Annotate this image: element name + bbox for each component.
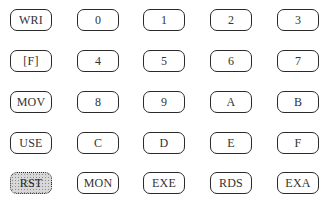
key-use[interactable]: USE bbox=[10, 132, 52, 154]
key-exe[interactable]: EXE bbox=[143, 172, 185, 194]
key-8[interactable]: 8 bbox=[77, 91, 119, 113]
key-exa[interactable]: EXA bbox=[277, 172, 319, 194]
key-0[interactable]: 0 bbox=[77, 9, 119, 31]
key-b[interactable]: B bbox=[277, 91, 319, 113]
key-rds[interactable]: RDS bbox=[210, 172, 252, 194]
key-function[interactable]: [F] bbox=[10, 50, 52, 72]
key-wri[interactable]: WRI bbox=[10, 9, 52, 31]
key-mov[interactable]: MOV bbox=[10, 91, 52, 113]
key-6[interactable]: 6 bbox=[210, 50, 252, 72]
key-4[interactable]: 4 bbox=[77, 50, 119, 72]
keypad: WRI 0 1 2 3 [F] 4 5 6 7 MOV 8 9 A B USE … bbox=[0, 0, 328, 204]
key-a[interactable]: A bbox=[210, 91, 252, 113]
key-f[interactable]: F bbox=[277, 132, 319, 154]
key-c[interactable]: C bbox=[77, 132, 119, 154]
key-7[interactable]: 7 bbox=[277, 50, 319, 72]
key-rst[interactable]: RST bbox=[10, 172, 52, 194]
key-e[interactable]: E bbox=[210, 132, 252, 154]
key-2[interactable]: 2 bbox=[210, 9, 252, 31]
key-mon[interactable]: MON bbox=[77, 172, 119, 194]
key-5[interactable]: 5 bbox=[143, 50, 185, 72]
key-1[interactable]: 1 bbox=[143, 9, 185, 31]
key-3[interactable]: 3 bbox=[277, 9, 319, 31]
key-9[interactable]: 9 bbox=[143, 91, 185, 113]
key-d[interactable]: D bbox=[143, 132, 185, 154]
